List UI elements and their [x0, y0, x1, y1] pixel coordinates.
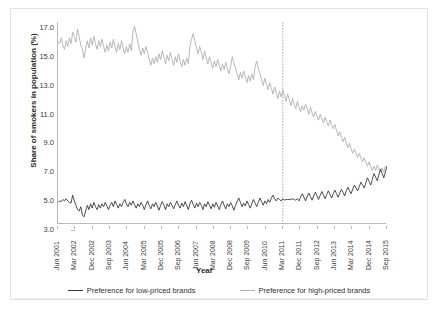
x-axis-tickmark — [92, 226, 93, 229]
x-axis-tick-jun-2013: Jun 2013 — [330, 241, 337, 270]
x-axis-title: Year — [196, 266, 213, 275]
legend-swatch-low-priced-icon — [68, 290, 83, 291]
y-axis-tick-15-0: 15.0 — [18, 53, 54, 61]
x-axis-tickmark — [144, 226, 145, 229]
x-axis-tick-dec-2008: Dec 2008 — [226, 240, 233, 270]
series-line-low-priced — [58, 166, 387, 217]
x-axis-tick-jun-2001: Jun 2001 — [53, 241, 60, 270]
legend-label-high-priced: Preference for high-priced brands — [259, 286, 371, 295]
y-axis-tick-5-0: 5.0 — [18, 197, 54, 205]
x-axis-tickmark — [109, 226, 110, 229]
y-axis-tick-labels: 3.05.07.09.011.013.015.017.0 — [18, 14, 54, 232]
legend-separator — [14, 298, 424, 299]
y-axis-tick-9-0: 9.0 — [18, 139, 54, 147]
x-axis-tick-jun-2010: Jun 2010 — [261, 241, 268, 270]
x-axis-tick-dec-2002: Dec 2002 — [88, 240, 95, 270]
x-axis-tickmark — [57, 226, 58, 229]
plot-area — [57, 22, 386, 224]
x-axis-tick-mar-2002: Mar 2002 — [70, 240, 77, 270]
x-axis-tick-jun-2004: Jun 2004 — [122, 241, 129, 270]
x-axis-tickmark — [317, 226, 318, 229]
x-axis-tickmark — [247, 226, 248, 229]
x-axis-tick-dec-2011: Dec 2011 — [295, 241, 302, 270]
y-axis-tick-17-0: 17.0 — [18, 24, 54, 32]
y-axis-tick-7-0: 7.0 — [18, 168, 54, 176]
y-axis-tick-13-0: 13.0 — [18, 82, 54, 90]
x-axis-tick-labels: Jun 2001Mar 2002Dec 2002Sep 2003Jun 2004… — [57, 226, 386, 270]
series-canvas — [58, 22, 387, 224]
legend-item-high-priced: Preference for high-priced brands — [240, 286, 371, 295]
x-axis-tick-sep-2012: Sep 2012 — [313, 240, 320, 270]
x-axis-tick-sep-2003: Sep 2003 — [105, 240, 112, 270]
chart-figure: Share of smokers in population (%) 3.05.… — [0, 0, 439, 311]
x-axis-tick-mar-2014: Mar 2014 — [347, 240, 354, 270]
x-axis-tick-sep-2015: Sep 2015 — [382, 240, 389, 270]
x-axis-tick-mar-2005: Mar 2005 — [140, 240, 147, 270]
legend-label-low-priced: Preference for low-priced brands — [87, 286, 196, 295]
x-axis-tickmark — [196, 226, 197, 229]
x-axis-tickmark — [386, 226, 387, 229]
x-axis-tick-sep-2009: Sep 2009 — [243, 240, 250, 270]
x-axis-tickmark — [282, 226, 283, 229]
x-axis-tick-sep-2006: Sep 2006 — [174, 240, 181, 270]
x-axis-tickmark — [126, 226, 127, 229]
x-axis-tickmark — [74, 226, 75, 229]
legend-swatch-high-priced-icon — [240, 290, 255, 291]
x-axis-tick-dec-2005: Dec 2005 — [157, 240, 164, 270]
x-axis-tickmark — [334, 226, 335, 229]
x-axis-tickmark — [351, 226, 352, 229]
x-axis-tickmark — [265, 226, 266, 229]
x-axis-tickmark — [230, 226, 231, 229]
y-axis-tick-11-0: 11.0 — [18, 111, 54, 119]
x-axis-tick-mar-2011: Mar 2011 — [278, 241, 285, 270]
x-axis-tickmark — [178, 226, 179, 229]
y-axis-tick-3-0: 3.0 — [18, 226, 54, 234]
x-axis-tickmark — [213, 226, 214, 229]
x-axis-tickmark — [369, 226, 370, 229]
x-axis-tick-dec-2014: Dec 2014 — [365, 240, 372, 270]
series-line-high-priced — [58, 26, 385, 172]
x-axis-tickmark — [299, 226, 300, 229]
chart-legend: Preference for low-priced brands Prefere… — [14, 282, 424, 298]
legend-item-low-priced: Preference for low-priced brands — [68, 286, 196, 295]
x-axis-tickmark — [161, 226, 162, 229]
